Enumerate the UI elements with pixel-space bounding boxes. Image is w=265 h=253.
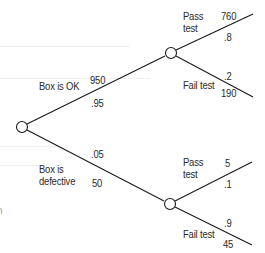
branch-label-box-defective: Box is defective — [39, 163, 75, 187]
defective-chance-node — [165, 199, 176, 210]
branch-label-ok-pass: Pass test — [183, 10, 203, 34]
branch-count-ok-pass: 760 — [221, 10, 236, 22]
branch-probability-defective-pass: .1 — [224, 178, 232, 190]
branch-count-defective-pass: 5 — [225, 157, 230, 169]
root-chance-node — [17, 122, 28, 133]
branch-count-box-ok: 950 — [90, 74, 105, 86]
branch-count-ok-fail: 190 — [221, 87, 236, 99]
branch-probability-ok-fail: .2 — [224, 70, 232, 82]
ok-chance-node — [166, 48, 177, 59]
branch-label-defective-fail: Fail test — [183, 228, 214, 240]
branch-probability-ok-pass: .8 — [224, 31, 232, 43]
branch-label-defective-pass: Pass test — [183, 156, 203, 180]
branch-probability-box-defective: .05 — [91, 148, 104, 160]
branch-label-ok-fail: Fail test — [183, 79, 214, 91]
branch-label-box-ok: Box is OK — [39, 80, 79, 92]
clipped-text-fragment: n — [0, 205, 3, 216]
branch-count-box-defective: 50 — [92, 177, 102, 189]
branch-count-defective-fail: 45 — [223, 238, 233, 250]
branch-probability-defective-fail: .9 — [224, 217, 232, 229]
branch-probability-box-ok: .95 — [91, 97, 104, 109]
